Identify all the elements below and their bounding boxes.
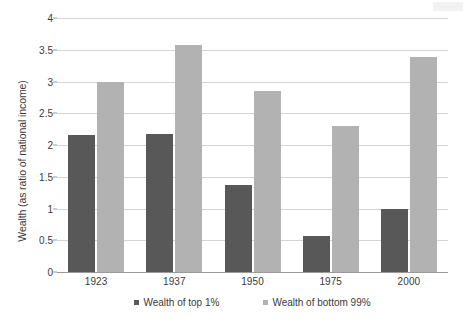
- axis-baseline: [57, 272, 448, 273]
- bar: [381, 209, 408, 273]
- y-tick-label: 2.5: [19, 108, 53, 119]
- bar-group: [292, 18, 370, 272]
- corner-artifact: [433, 2, 463, 11]
- chart-legend: Wealth of top 1%Wealth of bottom 99%: [57, 294, 448, 310]
- bar-group: [57, 18, 135, 272]
- legend-item: Wealth of top 1%: [134, 297, 219, 308]
- legend-label: Wealth of bottom 99%: [272, 297, 370, 308]
- y-tick-label: 2: [19, 140, 53, 151]
- bar: [225, 185, 252, 272]
- legend-swatch-icon: [134, 300, 139, 305]
- x-tick-label: 2000: [370, 276, 448, 292]
- x-tick-label: 1975: [292, 276, 370, 292]
- bar: [332, 126, 359, 272]
- legend-swatch-icon: [263, 300, 268, 305]
- bar: [254, 91, 281, 272]
- bar: [303, 236, 330, 272]
- bar: [146, 134, 173, 272]
- bar: [175, 45, 202, 272]
- y-tick-label: 3.5: [19, 44, 53, 55]
- y-tick-label: 0.5: [19, 235, 53, 246]
- y-tick-label: 1.5: [19, 171, 53, 182]
- bar-group: [213, 18, 291, 272]
- x-axis-labels: 19231937195019752000: [57, 276, 448, 292]
- x-tick-label: 1937: [135, 276, 213, 292]
- y-tick-label: 4: [19, 13, 53, 24]
- y-tick-label: 1: [19, 203, 53, 214]
- x-tick-label: 1923: [57, 276, 135, 292]
- legend-label: Wealth of top 1%: [143, 297, 219, 308]
- y-axis-ticks: 00.511.522.533.54: [15, 18, 53, 272]
- bar: [97, 82, 124, 273]
- x-tick-label: 1950: [213, 276, 291, 292]
- bar: [410, 57, 437, 272]
- bar-group: [135, 18, 213, 272]
- y-tick-label: 3: [19, 76, 53, 87]
- bar-groups: [57, 18, 448, 272]
- y-tick-label: 0: [19, 267, 53, 278]
- legend-item: Wealth of bottom 99%: [263, 297, 370, 308]
- bar-chart: Wealth (as ratio of national income) 00.…: [0, 0, 469, 323]
- bar-group: [370, 18, 448, 272]
- bar: [68, 135, 95, 272]
